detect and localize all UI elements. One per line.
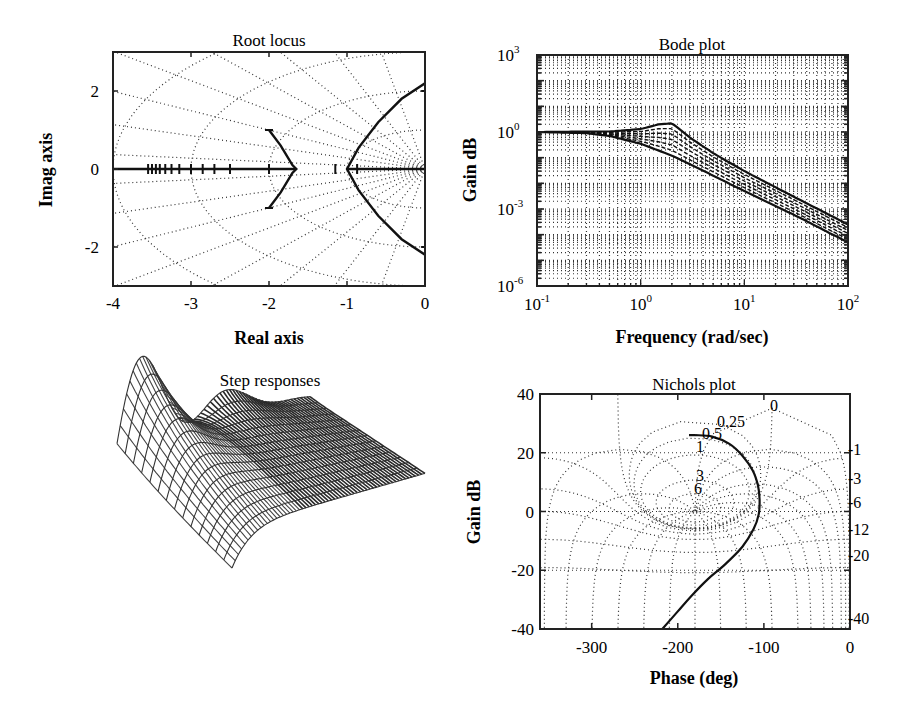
nichols-plot: Nichols plot -300-200-100040200-20-40 00… <box>464 375 869 689</box>
damping-ray <box>6 169 425 273</box>
root-locus-plot: Root locus -4-3-2-1020-2 Real axis Imag … <box>0 0 429 399</box>
nichols-frame <box>540 394 850 629</box>
cl-phase-contour <box>618 512 694 688</box>
cl-gain-label-right: -6 <box>848 494 861 511</box>
cl-gain-label-right: -1 <box>848 441 861 458</box>
x-tick-label: 0 <box>421 294 430 313</box>
cl-magnitude-contour <box>629 422 760 529</box>
cl-phase-contour <box>696 508 798 688</box>
x-tick-label: -2 <box>262 294 276 313</box>
x-tick-label: -100 <box>748 638 779 657</box>
cl-magnitude-contour <box>695 458 842 531</box>
cl-gain-label-right: -20 <box>848 547 869 564</box>
damping-ray <box>179 0 425 169</box>
y-tick-label: 10-6 <box>497 274 524 296</box>
cl-magnitude-contour <box>541 539 695 552</box>
damping-ray <box>0 169 425 191</box>
damping-ray <box>52 169 426 310</box>
root-locus-xlabel: Real axis <box>234 328 304 348</box>
root-locus-ylabel: Imag axis <box>36 133 56 208</box>
x-tick-label: 101 <box>733 292 756 314</box>
damping-ray <box>256 169 425 387</box>
x-tick-label: 0 <box>846 638 855 657</box>
cl-gain-label: 0 <box>770 397 778 414</box>
x-tick-label: 10-1 <box>524 292 550 314</box>
bode-title: Bode plot <box>659 35 726 54</box>
y-tick-label: 10-3 <box>497 197 524 219</box>
cl-phase-contour <box>697 512 773 688</box>
cl-gain-label: 0.5 <box>702 425 722 442</box>
damping-ray <box>339 0 425 169</box>
cl-phase-contour <box>696 494 824 688</box>
cl-gain-label: 6 <box>694 480 702 497</box>
y-tick-label: 2 <box>91 82 100 101</box>
cl-phase-contour <box>696 512 721 688</box>
damping-ray <box>256 0 425 169</box>
bode-xlabel: Frequency (rad/sec) <box>615 327 768 348</box>
cl-phase-contour <box>696 512 746 688</box>
y-tick-label: 40 <box>517 385 534 404</box>
damping-ray <box>0 147 425 169</box>
cl-phase-contour <box>566 494 694 688</box>
root-locus-title: Root locus <box>232 31 305 50</box>
x-tick-label: -3 <box>184 294 198 313</box>
x-tick-label: -4 <box>106 294 121 313</box>
cl-magnitude-contour <box>541 568 695 573</box>
bode-ticks: 10-110010110210310010-310-6 <box>497 43 859 314</box>
figure-canvas: Root locus -4-3-2-1020-2 Real axis Imag … <box>0 0 919 723</box>
cl-phase-contour <box>592 508 694 688</box>
x-tick-label: -200 <box>662 638 693 657</box>
cl-phase-contour <box>669 512 694 688</box>
y-tick-label: 0 <box>526 503 535 522</box>
step-responses-plot: Step responses <box>117 356 425 568</box>
damping-ray <box>110 0 425 169</box>
bode-grid <box>537 55 848 286</box>
cl-magnitude-contour <box>695 539 849 552</box>
y-tick-label: -2 <box>85 238 99 257</box>
x-tick-label: 100 <box>629 292 652 314</box>
y-tick-label: 103 <box>497 43 520 65</box>
y-tick-label: 0 <box>91 160 100 179</box>
y-tick-label: 100 <box>497 120 520 142</box>
y-tick-label: -40 <box>511 620 534 639</box>
nichols-xlabel: Phase (deg) <box>650 668 739 689</box>
cl-phase-contour <box>643 512 693 688</box>
x-tick-label: 102 <box>837 292 860 314</box>
cl-magnitude-contour <box>618 391 695 530</box>
nichols-ticks: -300-200-100040200-20-40 <box>511 385 854 657</box>
cl-gain-label-right: -40 <box>848 610 869 627</box>
step-responses-title: Step responses <box>220 371 321 390</box>
nichols-title: Nichols plot <box>652 375 736 394</box>
open-loop-curve <box>662 435 759 629</box>
y-tick-label: -20 <box>511 561 534 580</box>
x-tick-label: -1 <box>340 294 354 313</box>
cl-gain-label: 1 <box>696 438 704 455</box>
x-tick-label: -300 <box>576 638 607 657</box>
root-locus-grid <box>0 0 425 399</box>
y-tick-label: 20 <box>517 444 534 463</box>
nichols-curve <box>662 435 759 629</box>
damping-ray <box>339 169 425 399</box>
bode-ylabel: Gain dB <box>460 138 480 203</box>
cl-phase-contour <box>696 484 833 688</box>
bode-plot: Bode plot 10-110010110210310010-310-6 Fr… <box>460 35 859 348</box>
cl-gain-label-right: -3 <box>848 470 861 487</box>
nichols-ylabel: Gain dB <box>464 480 484 545</box>
gain-curve <box>537 132 848 230</box>
cl-magnitude-contour <box>544 458 695 531</box>
wn-circle <box>35 0 425 364</box>
surface-line <box>117 444 232 568</box>
cl-gain-label-right: -12 <box>848 521 869 538</box>
